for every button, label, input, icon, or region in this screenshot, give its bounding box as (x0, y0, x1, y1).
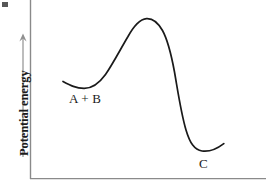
energy-profile-plot (0, 0, 266, 190)
reaction-energy-curve (63, 19, 224, 152)
potential-energy-figure: Potential energy A + B C (0, 0, 266, 190)
y-axis-label: Potential energy (16, 36, 32, 156)
reactants-label: A + B (69, 91, 101, 107)
products-label: C (199, 156, 208, 172)
